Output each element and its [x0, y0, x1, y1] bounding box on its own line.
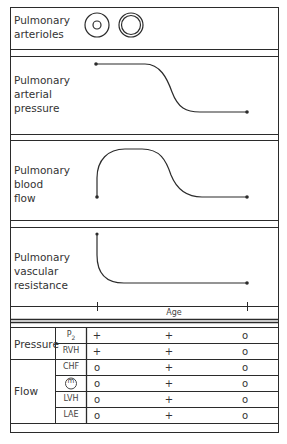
table-cell: o [239, 410, 251, 421]
panel-label-pressure: Pulmonary arterial pressure [14, 73, 70, 115]
table-cell: + [91, 346, 103, 357]
table-cell: + [163, 330, 175, 341]
table-cell: o [91, 394, 103, 405]
table-cell: + [163, 410, 175, 421]
table-cell: o [239, 330, 251, 341]
table-cell: o [239, 394, 251, 405]
arteriole-icons [85, 13, 143, 37]
table-sublabel-rvh: RVH [56, 346, 86, 355]
table-cell: o [91, 362, 103, 373]
table-cell: o [91, 378, 103, 389]
table-sublabel-p2: P2 [56, 330, 86, 341]
table-sublabel-chf: CHF [56, 362, 86, 371]
table-cell: o [239, 362, 251, 373]
table-sublabel-lvh: LVH [56, 394, 86, 403]
table-sublabel-murmur: m [56, 377, 86, 385]
table-group-flow: Flow [14, 384, 38, 398]
table-cell: + [91, 330, 103, 341]
table-cell: + [163, 362, 175, 373]
flow-curve [95, 149, 249, 199]
resistance-curve [95, 232, 248, 284]
table-cell: o [239, 346, 251, 357]
panel-label-arterioles: Pulmonary arterioles [14, 13, 70, 41]
table-cell: o [239, 378, 251, 389]
table-cell: + [163, 346, 175, 357]
table-sublabel-lae: LAE [56, 410, 86, 419]
table-cell: o [91, 410, 103, 421]
table-cell: + [163, 394, 175, 405]
pressure-curve [94, 62, 249, 114]
table-cell: + [163, 378, 175, 389]
panel-label-flow: Pulmonary blood flow [14, 163, 70, 205]
table-group-pressure: Pressure [14, 337, 59, 351]
thick-wall-arteriole-icon [85, 13, 109, 37]
axis-label-age: Age [160, 308, 188, 317]
panel-label-resistance: Pulmonary vascular resistance [14, 250, 70, 292]
thin-wall-arteriole-icon [119, 13, 143, 37]
